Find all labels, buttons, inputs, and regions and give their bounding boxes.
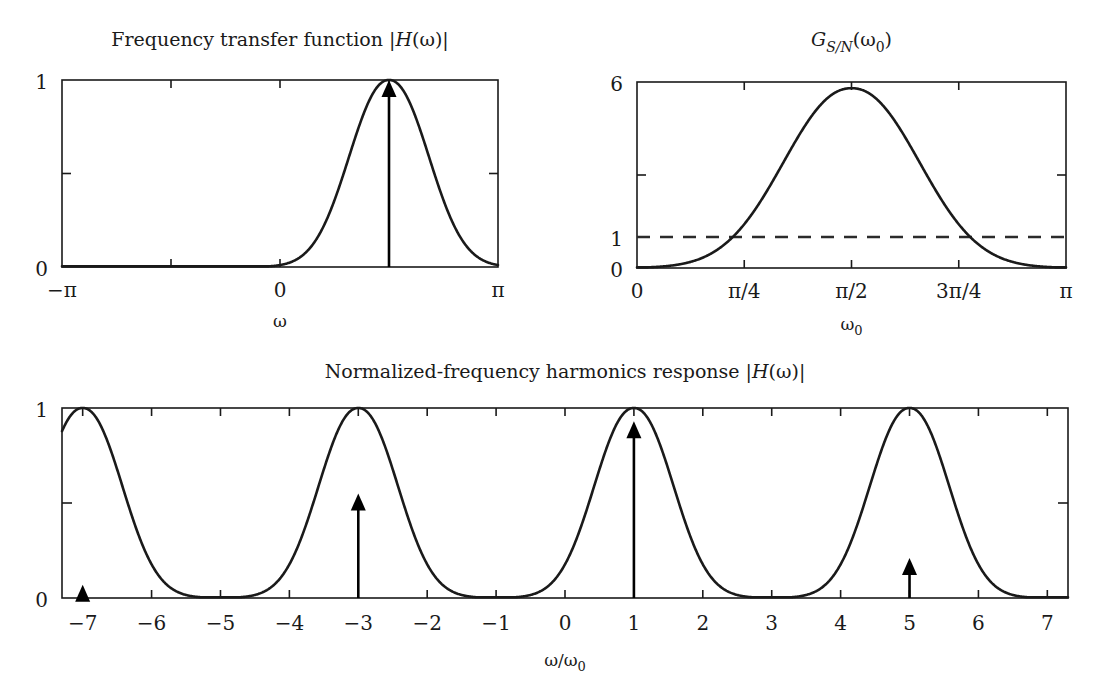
top-right-xtick-label-1: π/4 [728, 279, 761, 303]
top-left-xaxis-label: ω [273, 311, 287, 331]
bottom-xtick-label-2: −5 [206, 611, 235, 635]
bottom-xtick-label-13: 6 [972, 611, 985, 635]
top-right-panel-title: GS/N(ω0) [811, 28, 892, 55]
bottom-harmonic-arrow-2 [626, 421, 641, 598]
bottom-plot-frame [62, 408, 1068, 598]
bottom-harmonic-arrow-0 [75, 585, 90, 602]
bottom-xtick-label-1: −6 [137, 611, 166, 635]
bottom-ytick-label-1: 1 [35, 398, 48, 422]
bottom-xtick-label-4: −3 [344, 611, 373, 635]
bottom-ytick-label-0: 0 [35, 588, 48, 612]
bottom-harmonic-arrow-1 [351, 494, 366, 599]
top-right-ytick-label-0: 0 [610, 258, 623, 282]
arrow-head [351, 494, 366, 511]
top-left-xtick-label-neg-pi: −π [47, 278, 77, 302]
top-left-response-curve [62, 80, 498, 266]
top-right-xaxis-label: ω0 [840, 314, 862, 338]
arrow-head [626, 421, 641, 438]
top-left-ytick-label-1: 1 [35, 70, 48, 94]
bottom-xtick-label-0: −7 [68, 611, 97, 635]
top-left-xtick-label-pi: π [491, 278, 504, 302]
bottom-xtick-label-8: 1 [628, 611, 641, 635]
top-left-panel-title: Frequency transfer function |H(ω)| [111, 28, 449, 51]
arrow-head [75, 585, 90, 602]
bottom-xtick-label-7: 0 [559, 611, 572, 635]
top-right-xtick-label-2: π/2 [835, 279, 868, 303]
bottom-xaxis-label: ω/ω0 [544, 650, 586, 674]
top-right-ytick-label-1: 1 [610, 227, 623, 251]
top-right-xtick-label-3: 3π/4 [936, 279, 981, 303]
arrow-head [902, 558, 917, 575]
figure-root: Frequency transfer function |H(ω)|10−π0π… [0, 0, 1116, 694]
bottom-xtick-label-10: 3 [765, 611, 778, 635]
bottom-xtick-label-5: −2 [412, 611, 441, 635]
top-left-plot-frame [62, 80, 498, 267]
figure-canvas: Frequency transfer function |H(ω)|10−π0π… [0, 0, 1116, 694]
top-right-xtick-label-0: 0 [631, 279, 644, 303]
top-left-xtick-label-zero: 0 [274, 278, 287, 302]
bottom-xtick-label-9: 2 [696, 611, 709, 635]
top-left-harmonic-arrow [382, 80, 397, 267]
top-right-gain-curve [637, 88, 1066, 267]
bottom-harmonics-curve [62, 408, 1068, 597]
bottom-xtick-label-3: −4 [275, 611, 304, 635]
bottom-xtick-label-6: −1 [481, 611, 510, 635]
top-right-xtick-label-4: π [1059, 279, 1072, 303]
top-right-ytick-label-6: 6 [610, 72, 623, 96]
bottom-xtick-label-12: 5 [903, 611, 916, 635]
top-right-plot-frame [637, 82, 1066, 268]
bottom-xtick-label-14: 7 [1041, 611, 1054, 635]
bottom-panel-title: Normalized-frequency harmonics response … [325, 360, 806, 383]
bottom-harmonic-arrow-3 [902, 558, 917, 598]
bottom-xtick-label-11: 4 [834, 611, 847, 635]
